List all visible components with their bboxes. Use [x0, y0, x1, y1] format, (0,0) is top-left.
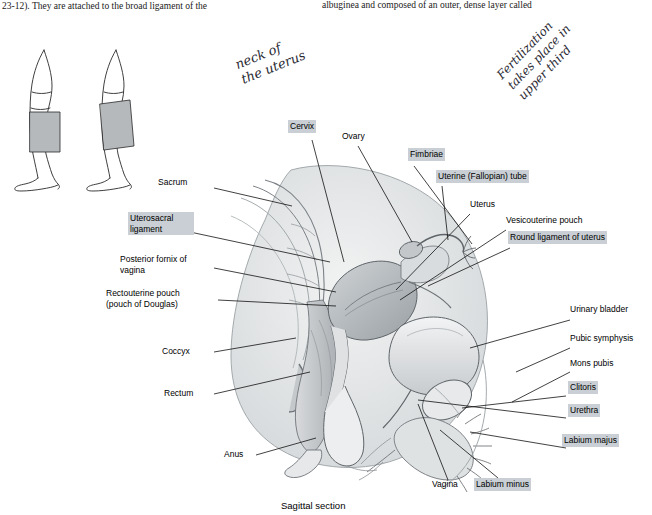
- body-text-right-column: albuginea and composed of an outer, dens…: [322, 0, 642, 10]
- handwritten-note-fertilization: Fertilization takes place in upper third: [494, 11, 585, 103]
- label-round-ligament-of-uterus: Round ligament of uterus: [508, 231, 607, 244]
- label-vagina: Vagina: [430, 478, 460, 491]
- label-anus: Anus: [222, 448, 245, 461]
- label-uterine-fallopian-tube: Uterine (Fallopian) tube: [436, 170, 529, 183]
- body-text-left-column: 23-12). They are attached to the broad l…: [2, 0, 292, 12]
- label-labium-majus: Labium majus: [562, 434, 619, 447]
- label-coccyx: Coccyx: [160, 345, 192, 358]
- label-rectum: Rectum: [162, 387, 195, 400]
- label-posterior-fornix-of-vagina: Posterior fornix of vagina: [118, 253, 198, 276]
- label-clitoris: Clitoris: [568, 381, 598, 394]
- label-urethra: Urethra: [568, 404, 600, 417]
- label-rectouterine-pouch: Rectouterine pouch (pouch of Douglas): [104, 287, 206, 310]
- label-labium-minus: Labium minus: [474, 478, 531, 491]
- label-vesicouterine-pouch: Vesicouterine pouch: [504, 214, 585, 227]
- label-urinary-bladder: Urinary bladder: [568, 303, 630, 316]
- label-uterosacral-ligament: Uterosacral ligament: [128, 212, 194, 235]
- label-fimbriae: Fimbriae: [408, 148, 445, 161]
- label-ovary: Ovary: [340, 130, 367, 143]
- label-cervix: Cervix: [288, 120, 316, 133]
- label-sacrum: Sacrum: [156, 176, 189, 189]
- label-pubic-symphysis: Pubic symphysis: [568, 332, 635, 345]
- textbook-page: 23-12). They are attached to the broad l…: [0, 0, 652, 515]
- label-uterus: Uterus: [468, 198, 497, 211]
- label-mons-pubis: Mons pubis: [568, 357, 615, 370]
- limb-line-drawings: [8, 48, 178, 193]
- handwritten-note-neck-of-uterus: neck of the uterus: [233, 33, 308, 88]
- figure-caption: Sagittal section: [281, 500, 345, 511]
